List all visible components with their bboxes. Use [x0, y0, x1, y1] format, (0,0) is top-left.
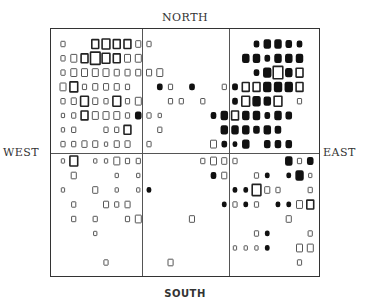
- cell-square: [158, 127, 162, 132]
- cell-square: [286, 41, 291, 48]
- cell-square: [103, 69, 109, 77]
- cell-square: [255, 246, 258, 250]
- cell-square: [125, 69, 130, 76]
- cell-square: [265, 56, 269, 61]
- cell-square: [232, 126, 238, 134]
- cell-square: [71, 172, 76, 179]
- cell-square: [71, 69, 77, 77]
- cell-square: [308, 231, 312, 236]
- cell-square: [273, 66, 283, 78]
- cell-square: [102, 53, 110, 63]
- cell-square: [114, 112, 120, 120]
- cell-square: [61, 41, 65, 46]
- cell-square: [135, 54, 141, 62]
- cell-glyphs: [51, 29, 321, 278]
- cell-square: [296, 68, 303, 77]
- cell-square: [104, 260, 108, 265]
- cell-square: [81, 111, 88, 120]
- cell-square: [309, 173, 312, 177]
- cell-square: [308, 158, 313, 165]
- cell-square: [147, 141, 151, 146]
- cell-square: [243, 140, 249, 148]
- cell-square: [179, 99, 183, 104]
- cell-square: [254, 41, 258, 46]
- cell-square: [201, 158, 205, 163]
- cell-square: [266, 246, 269, 250]
- cell-square: [125, 84, 129, 89]
- cell-square: [104, 99, 108, 104]
- cell-square: [275, 112, 281, 120]
- cell-square: [222, 158, 227, 165]
- cell-square: [211, 173, 215, 178]
- cell-square: [297, 54, 303, 62]
- cell-square: [137, 173, 140, 177]
- cell-square: [297, 260, 301, 265]
- cell-square: [264, 40, 270, 48]
- cell-square: [276, 202, 279, 206]
- cell-square: [113, 96, 121, 106]
- cell-square: [297, 244, 303, 252]
- cell-square: [275, 83, 282, 92]
- cell-square: [264, 83, 271, 92]
- cell-square: [93, 187, 98, 194]
- cell-square: [147, 188, 150, 192]
- cell-square: [70, 82, 78, 92]
- cell-square: [125, 54, 131, 62]
- cell-square: [244, 246, 247, 250]
- cell-square: [254, 202, 258, 207]
- cell-square: [276, 187, 280, 192]
- label-east: EAST: [323, 146, 356, 159]
- cell-square: [233, 84, 237, 89]
- cell-square: [71, 98, 76, 105]
- cell-square: [102, 39, 110, 49]
- cell-square: [125, 141, 130, 148]
- cell-square: [244, 188, 247, 192]
- cell-square: [135, 97, 141, 105]
- cell-square: [135, 215, 141, 223]
- label-south: SOUTH: [0, 288, 370, 299]
- cell-square: [125, 216, 129, 221]
- cell-square: [211, 113, 215, 118]
- cell-square: [233, 188, 236, 192]
- cell-square: [254, 127, 259, 134]
- cell-square: [114, 157, 120, 165]
- cell-square: [115, 188, 118, 192]
- cell-square: [147, 113, 151, 118]
- cell-square: [254, 54, 260, 62]
- cell-square: [307, 244, 313, 252]
- cell-square: [81, 96, 89, 106]
- cell-square: [61, 99, 65, 104]
- cell-square: [93, 216, 97, 221]
- cell-square: [92, 40, 99, 49]
- cell-square: [297, 158, 301, 163]
- cell-square: [266, 231, 269, 235]
- cell-square: [136, 69, 141, 76]
- cell-square: [275, 141, 280, 148]
- cell-square: [81, 54, 88, 63]
- cell-square: [93, 141, 98, 148]
- cell-square: [115, 173, 118, 177]
- cell-square: [115, 127, 119, 132]
- cell-square: [147, 69, 152, 76]
- cell-square: [113, 40, 120, 49]
- cell-square: [222, 172, 227, 179]
- cell-square: [296, 83, 303, 92]
- cell-square: [222, 141, 226, 146]
- cell-square: [147, 41, 151, 46]
- cell-square: [158, 113, 161, 117]
- cell-square: [104, 84, 109, 91]
- cell-square: [71, 54, 77, 62]
- cell-square: [72, 216, 76, 221]
- cell-square: [265, 141, 270, 148]
- cell-square: [265, 113, 269, 118]
- label-west: WEST: [3, 146, 39, 159]
- cell-square: [243, 54, 249, 62]
- cell-square: [168, 84, 172, 89]
- cell-square: [93, 98, 98, 105]
- cell-square: [275, 127, 280, 134]
- cell-square: [125, 158, 129, 163]
- cell-square: [137, 188, 140, 192]
- cell-square: [287, 202, 290, 206]
- cell-square: [157, 69, 163, 77]
- cell-square: [242, 96, 250, 106]
